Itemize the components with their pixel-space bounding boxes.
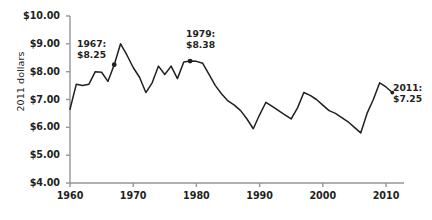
annotation-2011-value: $7.25 — [393, 93, 422, 104]
y-axis-tick-label: $4.00 — [8, 177, 60, 188]
y-axis-tick-label: $8.00 — [8, 66, 60, 77]
annotation-2011: 2011: $7.25 — [393, 82, 422, 105]
chart-plot-area — [0, 0, 432, 220]
annotation-1967: 1967: $8.25 — [77, 38, 106, 61]
x-axis-tick-label: 1970 — [111, 190, 155, 201]
y-axis-tick-label: $5.00 — [8, 149, 60, 160]
x-axis-tick-label: 2010 — [364, 190, 408, 201]
annotation-1967-year: 1967: — [77, 38, 106, 49]
annotation-1979: 1979: $8.38 — [186, 28, 215, 51]
y-axis-tick-label: $7.00 — [8, 94, 60, 105]
annotation-1967-marker — [112, 62, 117, 67]
y-axis-tick-label: $9.00 — [8, 38, 60, 49]
x-axis-tick-label: 1980 — [174, 190, 218, 201]
data-series-line — [70, 44, 392, 133]
x-axis-tick-label: 2000 — [301, 190, 345, 201]
annotation-1967-value: $8.25 — [77, 49, 106, 60]
x-axis-tick-label: 1990 — [238, 190, 282, 201]
annotation-1979-year: 1979: — [186, 28, 215, 39]
x-axis-tick-label: 1960 — [48, 190, 92, 201]
y-axis-tick-label: $6.00 — [8, 121, 60, 132]
annotation-1979-value: $8.38 — [186, 39, 215, 50]
annotation-2011-year: 2011: — [393, 82, 422, 93]
annotation-1979-marker — [188, 59, 193, 64]
chart-container: 2011 dollars $10.00$9.00$8.00$7.00$6.00$… — [0, 0, 432, 220]
y-axis-tick-label: $10.00 — [8, 10, 60, 21]
